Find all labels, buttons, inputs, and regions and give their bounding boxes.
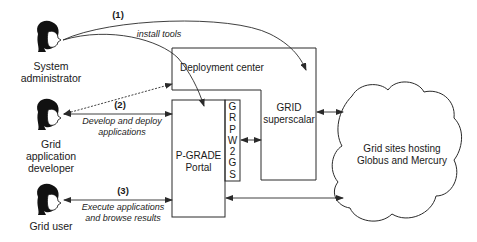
person-head-icon [37, 21, 61, 52]
install-tools-label: install tools [124, 29, 194, 40]
actor-label-developer: Grid application developer [14, 138, 88, 174]
grid-sites-label: Grid sites hosting Globus and Mercury [344, 143, 460, 167]
grid-superscalar-label: GRID superscalar [262, 102, 316, 126]
execute-browse-label: Execute applications and browse results [74, 202, 172, 224]
step-2-label: (2) [110, 99, 130, 111]
step-3-label: (3) [113, 185, 133, 197]
grpw2gs-label: G R P W 2 G S [225, 101, 240, 180]
develop-deploy-label: Develop and deploy applications [76, 116, 168, 138]
person-head-icon [37, 184, 61, 215]
step-1-label: (1) [108, 9, 128, 21]
actor-label-sysadmin: System administrator [14, 60, 88, 84]
deployment-center-label: Deployment center [180, 62, 280, 74]
person-head-icon [37, 99, 61, 130]
pgrade-portal-label: P-GRADE Portal [172, 150, 225, 174]
